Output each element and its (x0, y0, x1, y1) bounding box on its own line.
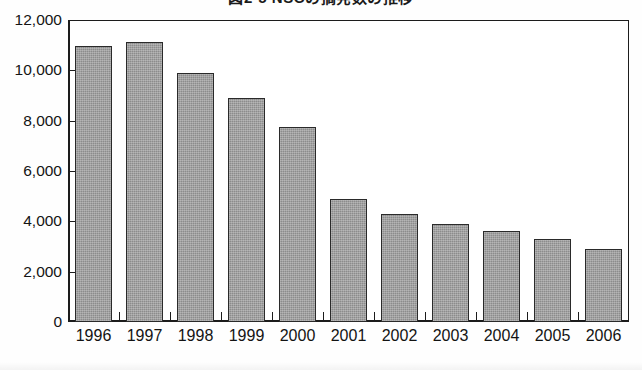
x-tick-label-2005: 2005 (527, 326, 578, 346)
bar-2001 (330, 199, 367, 322)
x-tick-mark (119, 312, 120, 321)
chart-title: 図2-5 NSCの摘発数の推移 (0, 0, 642, 10)
x-tick-mark (476, 312, 477, 321)
y-tick-mark (68, 121, 75, 122)
x-tick-mark (170, 312, 171, 321)
y-tick-label: 6,000 (0, 163, 62, 178)
y-tick-label: 0 (0, 314, 62, 329)
y-tick-mark (68, 70, 75, 71)
y-tick-label: 4,000 (0, 213, 62, 228)
bar-2004 (483, 231, 520, 322)
y-tick-mark (68, 171, 75, 172)
x-tick-mark (272, 312, 273, 321)
x-tick-label-1998: 1998 (170, 326, 221, 346)
y-axis: 02,0004,0006,0008,00010,00012,000 (0, 20, 62, 322)
bar-1998 (177, 73, 214, 322)
bar-2003 (432, 224, 469, 322)
x-axis: 1996199719981999200020012002200320042005… (68, 326, 629, 352)
x-tick-mark (578, 312, 579, 321)
y-tick-label: 10,000 (0, 62, 62, 77)
bar-2005 (534, 239, 571, 322)
y-tick-label: 12,000 (0, 12, 62, 27)
chart-scan-page: 図2-5 NSCの摘発数の推移 02,0004,0006,0008,00010,… (0, 0, 642, 370)
x-tick-label-2006: 2006 (578, 326, 629, 346)
y-tick-label: 8,000 (0, 113, 62, 128)
x-tick-label-2003: 2003 (425, 326, 476, 346)
x-tick-label-1997: 1997 (119, 326, 170, 346)
x-tick-mark (527, 312, 528, 321)
bar-1997 (126, 42, 163, 322)
x-tick-mark (323, 312, 324, 321)
x-tick-label-2002: 2002 (374, 326, 425, 346)
x-tick-mark (374, 312, 375, 321)
x-tick-label-1996: 1996 (68, 326, 119, 346)
x-tick-mark (221, 312, 222, 321)
y-tick-mark (68, 221, 75, 222)
y-tick-mark (68, 272, 75, 273)
scan-edge-shading (0, 362, 642, 370)
x-tick-label-2001: 2001 (323, 326, 374, 346)
bar-2000 (279, 127, 316, 322)
bar-1999 (228, 98, 265, 322)
x-tick-label-2004: 2004 (476, 326, 527, 346)
bar-series (68, 20, 629, 322)
bar-1996 (75, 46, 112, 322)
bar-2002 (381, 214, 418, 322)
x-tick-mark (425, 312, 426, 321)
x-tick-label-2000: 2000 (272, 326, 323, 346)
x-axis-tick-marks (68, 312, 629, 322)
y-tick-label: 2,000 (0, 264, 62, 279)
x-tick-label-1999: 1999 (221, 326, 272, 346)
